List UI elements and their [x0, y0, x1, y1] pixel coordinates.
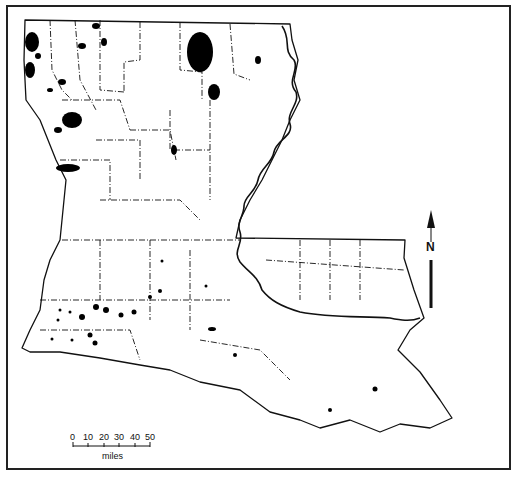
north-label: N [426, 240, 435, 254]
scale-tick-50: 50 [145, 432, 155, 442]
state-outline [22, 20, 452, 432]
scale-bar-icon [73, 442, 150, 447]
north-arrow-icon [427, 210, 435, 308]
mississippi-river [237, 26, 420, 320]
scale-tick-10: 10 [83, 432, 93, 442]
scale-tick-20: 20 [99, 432, 109, 442]
scale-tick-0: 0 [70, 432, 75, 442]
scale-unit-label: miles [102, 451, 123, 461]
distribution-blobs [25, 23, 378, 412]
louisiana-map [0, 0, 516, 479]
scale-tick-30: 30 [114, 432, 124, 442]
scale-tick-40: 40 [130, 432, 140, 442]
